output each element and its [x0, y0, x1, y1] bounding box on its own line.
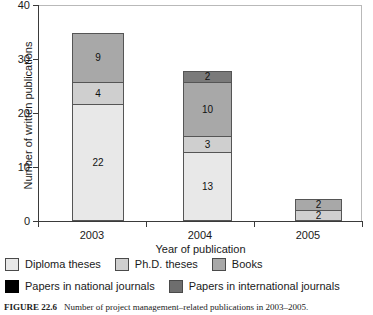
bar-2004-segment-phd[interactable]: 3: [183, 136, 232, 152]
legend-swatch-papers-international-icon: [169, 280, 183, 293]
bar-2004-diploma-value: 13: [202, 182, 213, 192]
bar-2004-segment-international-papers[interactable]: 2: [183, 71, 232, 82]
legend-item-papers-national[interactable]: Papers in national journals: [5, 280, 155, 293]
bar-2003-segment-phd[interactable]: 4: [72, 82, 124, 104]
bar-2005-segment-books[interactable]: 2: [295, 199, 342, 210]
legend-swatch-diploma-theses-icon: [5, 258, 19, 271]
x-tick-label-2005: 2005: [263, 230, 353, 241]
bar-2004-segment-books[interactable]: 10: [183, 82, 232, 136]
x-tick-label-2003: 2003: [47, 230, 137, 241]
legend-label-papers-international: Papers in international journals: [189, 280, 340, 292]
bar-2004-segment-diploma[interactable]: 13: [183, 152, 232, 221]
figure-caption-text: Number of project management–related pub…: [64, 302, 308, 312]
x-axis-title: Year of publication: [38, 244, 363, 255]
x-axis-line: [38, 221, 363, 222]
x-tick-right-edge: [362, 221, 363, 227]
bar-2003[interactable]: 9 4 22: [72, 5, 124, 221]
bar-2003-books-value: 9: [95, 53, 101, 63]
legend-swatch-books-icon: [212, 258, 226, 271]
legend-swatch-phd-theses-icon: [115, 258, 129, 271]
x-tick-label-2004: 2004: [155, 230, 245, 241]
legend-label-books: Books: [232, 258, 263, 270]
legend-label-phd-theses: Ph.D. theses: [135, 258, 198, 270]
legend-swatch-papers-national-icon: [5, 280, 19, 293]
legend-item-papers-international[interactable]: Papers in international journals: [169, 280, 340, 293]
bar-2003-diploma-value: 22: [92, 158, 103, 168]
figure-caption-label: FIGURE 22.6: [4, 302, 57, 312]
bar-2004-books-value: 10: [202, 105, 213, 115]
y-axis-title: Number of written publications: [23, 21, 34, 211]
y-tick-10: [33, 167, 39, 168]
x-tick-boundary-1: [146, 221, 147, 227]
bar-2005-segment-phd[interactable]: 2: [295, 210, 342, 221]
legend-item-diploma-theses[interactable]: Diploma theses: [5, 258, 101, 271]
y-tick-label-0: 0: [0, 216, 30, 227]
y-tick-20: [33, 113, 39, 114]
bar-2003-segment-diploma[interactable]: 22: [72, 104, 124, 221]
y-tick-30: [33, 59, 39, 60]
figure-container: 40 30 20 10 0 Number of written publicat…: [0, 0, 373, 315]
bar-2005[interactable]: 2 2: [295, 5, 342, 221]
y-tick-40: [33, 5, 39, 6]
x-tick-boundary-2: [254, 221, 255, 227]
legend-label-diploma-theses: Diploma theses: [25, 258, 101, 270]
y-tick-label-40: 40: [0, 0, 30, 11]
legend-row-2: Papers in national journals Papers in in…: [5, 278, 354, 294]
bar-2004[interactable]: 2 10 3 13: [183, 5, 232, 221]
legend-row-1: Diploma theses Ph.D. theses Books: [5, 256, 276, 272]
legend-item-phd-theses[interactable]: Ph.D. theses: [115, 258, 198, 271]
bar-2003-segment-books[interactable]: 9: [72, 33, 124, 82]
figure-caption: FIGURE 22.6Number of project management–…: [4, 302, 373, 313]
x-tick-left-edge: [38, 221, 39, 227]
bar-2004-international-papers-value: 2: [205, 72, 211, 82]
bar-2004-phd-value: 3: [205, 140, 211, 150]
legend-item-books[interactable]: Books: [212, 258, 263, 271]
legend-label-papers-national: Papers in national journals: [25, 280, 155, 292]
bar-2005-phd-value: 2: [316, 211, 322, 221]
bar-2005-books-value: 2: [316, 200, 322, 210]
bar-2003-phd-value: 4: [95, 89, 101, 99]
